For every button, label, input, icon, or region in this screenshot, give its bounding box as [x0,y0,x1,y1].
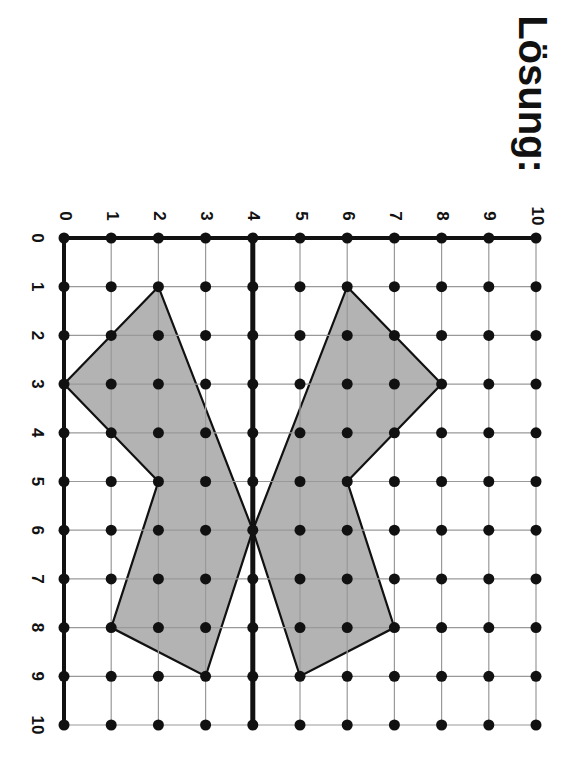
left-label: 6 [28,525,47,534]
top-label: 2 [150,211,169,220]
left-label: 3 [28,379,47,388]
left-label: 8 [28,623,47,632]
top-label: 8 [433,211,452,220]
top-label: 3 [197,211,216,220]
left-label: 2 [28,331,47,340]
left-label: 10 [28,716,47,735]
left-label: 7 [28,574,47,583]
left-label: 5 [28,477,47,486]
top-label: 5 [292,211,311,220]
top-label: 7 [386,211,405,220]
top-label: 0 [56,211,75,220]
grid-diagram: 012345678910012345678910 [0,0,571,760]
top-label: 1 [103,211,122,220]
top-label: 9 [480,211,499,220]
left-label: 4 [28,428,47,438]
left-label: 1 [28,282,47,291]
left-label: 0 [28,233,47,242]
top-label: 10 [528,207,547,226]
top-label: 4 [244,211,263,221]
left-label: 9 [28,672,47,681]
top-label: 6 [339,211,358,220]
